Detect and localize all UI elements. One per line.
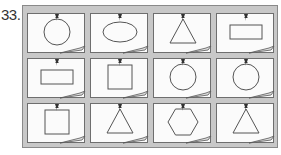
- circle-shape: [44, 19, 70, 45]
- shape-card-circle: [216, 58, 274, 98]
- curled-corner-icon: [249, 46, 274, 53]
- shape-card-ellipse: [90, 13, 148, 53]
- shape-card-rectangle: [27, 58, 85, 98]
- pinboard: [22, 5, 278, 148]
- pushpin-icon: [180, 14, 186, 21]
- rectangle-shape: [41, 70, 73, 84]
- curled-corner-icon: [60, 46, 85, 53]
- curled-corner-icon: [123, 91, 148, 98]
- ellipse-shape: [103, 22, 137, 42]
- shape-card-hexagon: [153, 103, 211, 143]
- square-shape: [45, 110, 69, 134]
- curled-corner-icon: [249, 136, 274, 143]
- rectangle-shape: [230, 25, 262, 39]
- curled-corner-icon: [123, 46, 148, 53]
- circle-shape: [170, 64, 196, 90]
- shape-card-triangle: [90, 103, 148, 143]
- shape-card-circle: [27, 13, 85, 53]
- curled-corner-icon: [249, 91, 274, 98]
- triangle-shape: [107, 109, 133, 133]
- pushpin-icon: [180, 104, 186, 111]
- pushpin-icon: [243, 59, 249, 66]
- pushpin-icon: [117, 59, 123, 66]
- pushpin-icon: [54, 14, 60, 21]
- shape-card-square: [90, 58, 148, 98]
- curled-corner-icon: [60, 136, 85, 143]
- shape-card-triangle: [153, 13, 211, 53]
- question-number: 33.: [1, 6, 20, 23]
- shape-card-triangle: [216, 103, 274, 143]
- shape-card-square: [27, 103, 85, 143]
- pushpin-icon: [117, 14, 123, 21]
- triangle-shape: [170, 19, 196, 43]
- pushpin-icon: [243, 14, 249, 21]
- curled-corner-icon: [123, 136, 148, 143]
- shape-card-circle: [153, 58, 211, 98]
- pushpin-icon: [180, 59, 186, 66]
- pushpin-icon: [117, 104, 123, 111]
- curled-corner-icon: [186, 136, 211, 143]
- curled-corner-icon: [186, 46, 211, 53]
- square-shape: [108, 65, 132, 89]
- triangle-shape: [233, 109, 259, 133]
- shape-card-rectangle: [216, 13, 274, 53]
- pushpin-icon: [54, 59, 60, 66]
- pushpin-icon: [243, 104, 249, 111]
- pushpin-icon: [54, 104, 60, 111]
- circle-shape: [233, 64, 259, 90]
- hexagon-shape: [168, 109, 198, 135]
- curled-corner-icon: [186, 91, 211, 98]
- curled-corner-icon: [60, 91, 85, 98]
